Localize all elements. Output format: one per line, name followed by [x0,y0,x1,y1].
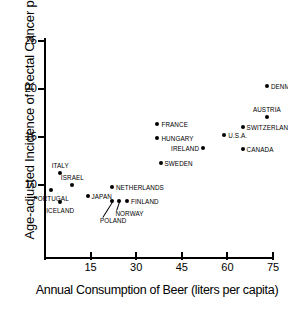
data-point [155,136,159,140]
y-tick: 10 [0,179,37,190]
y-tick-label-10: 10 [25,179,37,190]
x-axis-line [44,257,272,259]
x-tick-mark [226,252,228,260]
y-tick-mark [38,136,45,138]
data-point [86,194,90,198]
data-point [49,188,53,192]
data-point-label: PORTUGAL [33,195,68,202]
data-point-label: FINLAND [131,197,159,204]
data-point-label: SWEDEN [165,159,193,166]
data-point-label: U.S.A. [228,132,247,139]
y-tick: 15 [0,131,37,142]
data-point [155,122,159,126]
y-tick-mark [38,40,45,42]
x-tick-label-60: 60 [212,262,242,273]
data-point [159,161,163,165]
x-tick-label-75: 75 [258,262,288,273]
data-point [222,133,226,137]
x-tick-mark [272,252,274,260]
data-point-label: ICELAND [46,207,74,214]
data-point-label: CANADA [247,145,274,152]
x-tick-label-45: 45 [167,262,197,273]
data-point [241,125,245,129]
data-point-label: IRELAND [171,144,199,151]
data-point-label: JAPAN [92,192,112,199]
data-point [265,84,269,88]
data-point [110,185,114,189]
x-axis-title: Annual Consumption of Beer (liters per c… [28,283,286,297]
y-tick: 20 [0,83,37,94]
data-point-label: FRANCE [161,120,188,127]
beer-rectal-cancer-scatter-chart: Age-adjusted Incidence of Rectal Cancer … [0,0,288,309]
data-point [201,146,205,150]
x-tick-mark [90,252,92,260]
y-tick-mark [38,184,45,186]
y-tick-label-25: 25 [25,35,37,46]
data-point-label: ISRAEL [61,174,84,181]
y-tick: 25 [0,35,37,46]
data-point-label: ITALY [52,162,69,169]
y-tick-mark [38,88,45,90]
data-point-label: DENMARK [271,83,288,90]
data-point [241,147,245,151]
y-axis-line [44,38,46,258]
x-tick-label-15: 15 [76,262,106,273]
data-point [125,199,129,203]
data-point-label: POLAND [100,216,127,223]
data-point [265,115,269,119]
data-point-label: HUNGARY [161,134,193,141]
data-point [70,183,74,187]
data-point-label: SWITZERLAND [247,124,288,131]
x-tick-mark [181,252,183,260]
y-tick-label-15: 15 [25,131,37,142]
data-point-label: AUSTRIA [253,106,281,113]
data-point-label: NORWAY [115,209,143,216]
y-tick-label-20: 20 [25,83,37,94]
data-point-label: NETHERLANDS [116,183,164,190]
data-point [58,200,62,204]
x-tick-mark [135,252,137,260]
x-axis-origin-tick [44,252,46,260]
x-tick-label-30: 30 [121,262,151,273]
